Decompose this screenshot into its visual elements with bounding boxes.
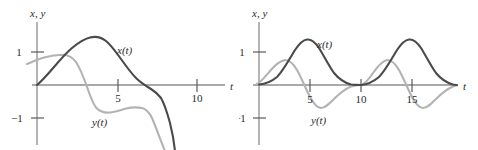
axes-group [253, 22, 457, 145]
y-tick-label-1: 1 [16, 46, 22, 58]
y-tick-label-1: 1 [239, 46, 245, 58]
figure-two-panel-plot: x, y t 1 −1 5 10 x(t) y(t) [0, 0, 478, 150]
x-tick-label-10: 10 [356, 93, 368, 105]
right-panel: x, y t 1 −1 5 10 15 x(t) y(t) [239, 0, 478, 150]
x-curve-path [37, 37, 175, 150]
x-tick-label-15: 15 [407, 93, 419, 105]
x-curve-label: x(t) [316, 38, 333, 51]
x-axis-label: t [230, 80, 234, 92]
curves-group [27, 37, 175, 150]
x-axis-label: t [463, 80, 467, 92]
y-curve-label: y(t) [310, 114, 327, 127]
y-axis-label: x, y [29, 7, 45, 19]
x-curve-label: x(t) [116, 44, 133, 57]
x-curve-path [259, 39, 457, 85]
x-tick-label-10: 10 [192, 92, 204, 104]
right-panel-svg: x, y t 1 −1 5 10 15 x(t) y(t) [239, 0, 478, 150]
labels-group: x, y t 1 −1 5 10 x(t) y(t) [11, 7, 234, 129]
y-axis-label: x, y [251, 7, 267, 19]
left-panel-svg: x, y t 1 −1 5 10 x(t) y(t) [0, 0, 239, 150]
axes-group [32, 22, 225, 145]
x-tick-label-5: 5 [307, 93, 313, 105]
y-curve-path [27, 55, 165, 150]
y-tick-label-neg1: −1 [239, 112, 246, 124]
y-curve-label: y(t) [91, 116, 108, 129]
left-panel: x, y t 1 −1 5 10 x(t) y(t) [0, 0, 239, 150]
y-tick-label-neg1: −1 [11, 112, 23, 124]
x-tick-label-5: 5 [115, 92, 121, 104]
